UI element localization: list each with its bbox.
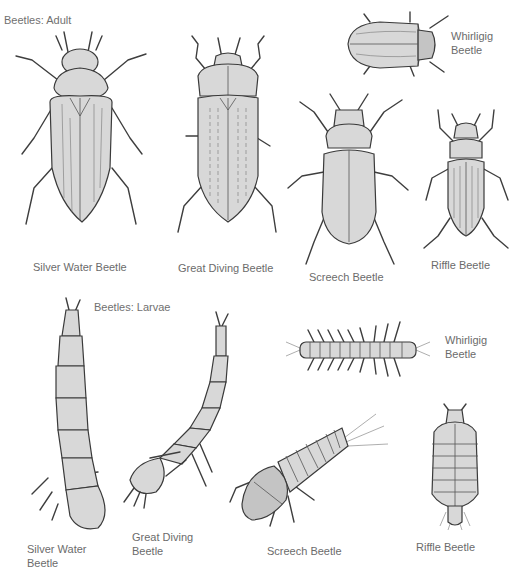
great-diving-beetle-adult-illustration [172,36,282,236]
label-whirligig-beetle-larva-line1: Whirligig [445,333,487,347]
screech-beetle-larva-illustration [218,392,388,542]
label-whirligig-beetle-adult-line2: Beetle [451,43,482,57]
label-great-diving-beetle-larva-line2: Beetle [132,544,163,558]
silver-water-beetle-larva-illustration [22,296,112,536]
label-silver-water-beetle-adult: Silver Water Beetle [33,260,127,274]
label-great-diving-beetle-adult: Great Diving Beetle [178,261,273,275]
clipped-heading-fragment [0,0,40,2]
label-silver-water-beetle-larva-line2: Beetle [27,556,58,570]
label-riffle-beetle-adult: Riffle Beetle [431,258,490,272]
whirligig-beetle-adult-illustration [340,10,450,80]
label-screech-beetle-larva: Screech Beetle [267,544,342,558]
section-title-adult: Beetles: Adult [4,13,71,27]
label-screech-beetle-adult: Screech Beetle [309,270,384,284]
label-silver-water-beetle-larva-line1: Silver Water [27,542,87,556]
whirligig-beetle-larva-illustration [284,320,444,380]
riffle-beetle-larva-illustration [420,402,490,532]
screech-beetle-adult-illustration [284,92,414,270]
riffle-beetle-adult-illustration [420,108,510,258]
label-great-diving-beetle-larva-line1: Great Diving [132,530,193,544]
silver-water-beetle-adult-illustration [10,28,150,228]
label-riffle-beetle-larva: Riffle Beetle [416,540,475,554]
label-whirligig-beetle-larva-line2: Beetle [445,347,476,361]
label-whirligig-beetle-adult-line1: Whirligig [451,29,493,43]
